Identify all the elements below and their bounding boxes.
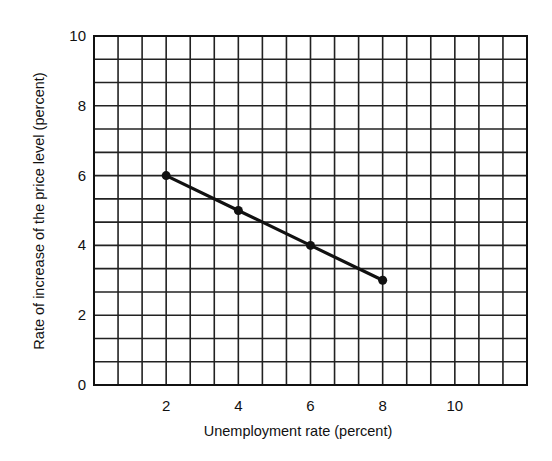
data-point-marker bbox=[306, 241, 315, 250]
series-line bbox=[166, 176, 382, 281]
y-tick-label: 2 bbox=[78, 306, 86, 323]
x-tick-label: 4 bbox=[234, 397, 242, 414]
data-series bbox=[162, 171, 387, 285]
y-tick-label: 10 bbox=[69, 27, 86, 44]
x-tick-label: 10 bbox=[446, 397, 463, 414]
y-tick-label: 0 bbox=[78, 376, 86, 393]
x-tick-label: 2 bbox=[162, 397, 170, 414]
data-point-marker bbox=[378, 276, 387, 285]
data-point-marker bbox=[162, 171, 171, 180]
x-axis-label: Unemployment rate (percent) bbox=[204, 423, 393, 439]
y-axis-ticks: 0246810 bbox=[69, 27, 86, 393]
y-tick-label: 4 bbox=[78, 236, 86, 253]
phillips-curve-chart: 0246810 246810 Unemployment rate (percen… bbox=[0, 0, 552, 461]
x-axis-ticks: 246810 bbox=[162, 397, 463, 414]
data-point-marker bbox=[234, 206, 243, 215]
y-tick-label: 6 bbox=[78, 167, 86, 184]
x-tick-label: 6 bbox=[306, 397, 314, 414]
grid-lines bbox=[94, 36, 527, 385]
x-tick-label: 8 bbox=[378, 397, 386, 414]
y-tick-label: 8 bbox=[78, 97, 86, 114]
y-axis-label: Rate of increase of the price level (per… bbox=[31, 72, 47, 349]
